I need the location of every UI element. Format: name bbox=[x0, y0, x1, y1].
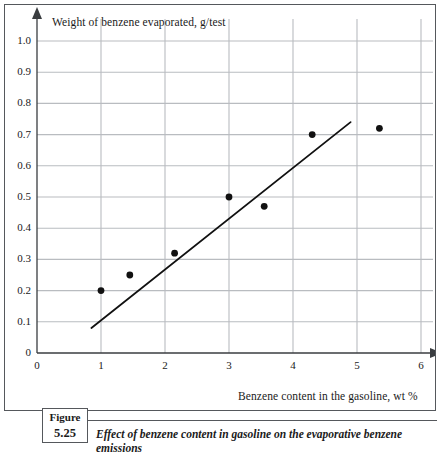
x-axis-tick-label: 1 bbox=[88, 359, 114, 371]
data-point-marker bbox=[309, 131, 316, 138]
figure-number-tag: Figure 5.25 bbox=[42, 408, 88, 443]
y-axis-tick-label: 0.5 bbox=[5, 190, 31, 202]
y-axis-arrowhead-icon bbox=[32, 7, 42, 19]
y-axis-tick-label: 1.0 bbox=[5, 34, 31, 46]
x-axis-tick-label: 3 bbox=[216, 359, 242, 371]
figure-tag-number: 5.25 bbox=[43, 426, 87, 441]
x-axis-title: Benzene content in the gasoline, wt % bbox=[238, 390, 418, 402]
trend-line bbox=[91, 122, 350, 328]
data-point-marker bbox=[171, 250, 178, 257]
y-axis-tick-label: 0.2 bbox=[5, 284, 31, 296]
caption-rule bbox=[42, 420, 437, 421]
y-axis-tick-label: 0 bbox=[5, 346, 31, 358]
data-point-marker bbox=[126, 272, 133, 279]
chart-plot-area bbox=[5, 5, 435, 410]
y-axis-tick-label: 0.3 bbox=[5, 252, 31, 264]
data-point-marker bbox=[376, 125, 383, 132]
x-axis-tick-label: 5 bbox=[344, 359, 370, 371]
y-axis-tick-label: 0.7 bbox=[5, 128, 31, 140]
x-axis-arrowhead-icon bbox=[430, 348, 435, 358]
data-point-marker bbox=[226, 194, 233, 201]
figure-caption-block: Figure 5.25 Effect of benzene content in… bbox=[4, 408, 437, 443]
x-axis-tick-label: 0 bbox=[24, 359, 50, 371]
data-point-marker bbox=[261, 203, 268, 210]
y-axis-tick-label: 0.4 bbox=[5, 221, 31, 233]
y-axis-title: Weight of benzene evaporated, g/test bbox=[52, 16, 226, 28]
plot-frame: Weight of benzene evaporated, g/test Ben… bbox=[4, 4, 436, 411]
y-axis-tick-label: 0.8 bbox=[5, 96, 31, 108]
figure-tag-label: Figure bbox=[43, 411, 87, 423]
y-axis-tick-label: 0.9 bbox=[5, 65, 31, 77]
y-axis-tick-label: 0.1 bbox=[5, 315, 31, 327]
x-axis-tick-label: 6 bbox=[408, 359, 434, 371]
x-axis-tick-label: 2 bbox=[152, 359, 178, 371]
data-point-marker bbox=[98, 287, 105, 294]
figure-caption-text: Effect of benzene content in gasoline on… bbox=[96, 427, 437, 455]
y-axis-tick-label: 0.6 bbox=[5, 159, 31, 171]
x-axis-tick-label: 4 bbox=[280, 359, 306, 371]
